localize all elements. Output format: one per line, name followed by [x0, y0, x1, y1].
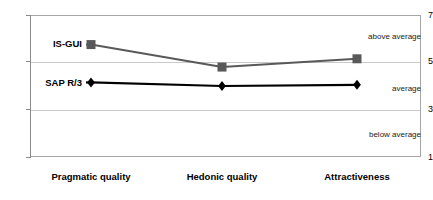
plot-area: [30, 15, 421, 157]
y-tick-label-1: 1: [409, 153, 433, 162]
series-label-sap-r3: SAP R/3: [45, 78, 82, 88]
y-tick-label-3: 3: [409, 105, 433, 114]
x-axis-label-pragmatic-quality: Pragmatic quality: [51, 172, 130, 182]
series-label-is-gui: IS-GUI: [53, 39, 82, 49]
y-tick-mark-3: [26, 109, 30, 110]
gridline-5: [31, 62, 420, 63]
x-axis-label-attractiveness: Attractiveness: [324, 172, 389, 182]
gridline-3: [31, 110, 420, 111]
y-tick-mark-5: [26, 61, 30, 62]
chart-container: 7 5 3 1 above average average below aver…: [0, 0, 433, 200]
band-label-average: average: [392, 85, 421, 93]
y-tick-label-5: 5: [409, 57, 433, 66]
y-tick-mark-1: [26, 157, 30, 158]
band-label-below-average: below average: [369, 131, 421, 139]
y-tick-label-7: 7: [409, 11, 433, 20]
x-axis-label-hedonic-quality: Hedonic quality: [187, 172, 258, 182]
band-label-above-average: above average: [368, 33, 421, 41]
y-axis-line: [30, 15, 31, 158]
y-tick-mark-7: [26, 15, 30, 16]
